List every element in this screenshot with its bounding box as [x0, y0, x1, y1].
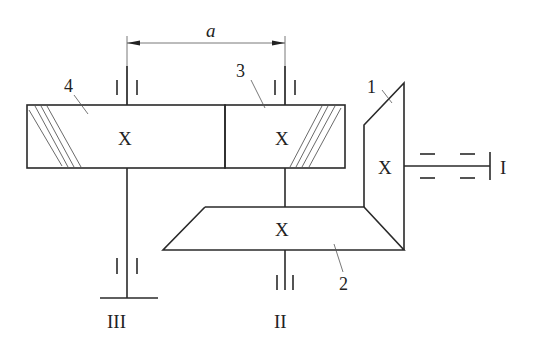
bevel-gear-1: X 1 — [364, 77, 404, 250]
gear-4-label: 4 — [64, 76, 73, 96]
gear-4: X 4 — [27, 76, 225, 168]
gear-3-center-mark: X — [275, 128, 289, 149]
gear-2-center-mark: X — [275, 219, 289, 240]
shaft-II-label: II — [274, 311, 287, 332]
shaft-III: III — [100, 66, 158, 332]
gear-3-label: 3 — [236, 61, 245, 81]
shaft-II: II — [274, 66, 295, 332]
gear-train-diagram: a X 4 X 3 III — [0, 0, 533, 339]
gear-4-center-mark: X — [118, 128, 132, 149]
arrowhead-left-icon — [127, 41, 140, 46]
shaft-I-label: I — [500, 157, 506, 178]
bevel-gear-2: X 2 — [163, 207, 404, 294]
shaft-I: I — [404, 152, 506, 180]
dimension-label-a: a — [206, 20, 216, 41]
shaft-III-label: III — [107, 311, 126, 332]
arrowhead-right-icon — [272, 41, 285, 46]
gear-1-center-mark: X — [378, 157, 392, 178]
gear-2-label: 2 — [339, 274, 348, 294]
gear-1-label: 1 — [367, 77, 376, 97]
center-distance-dimension: a — [127, 20, 285, 105]
